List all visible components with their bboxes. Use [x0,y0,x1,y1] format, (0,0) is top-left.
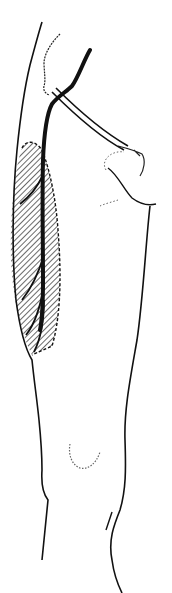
hand-outline [118,146,144,176]
medial-thigh-outline [111,206,150,593]
abdomen-dotted-outline [100,152,124,206]
patella-outline [69,444,100,468]
leg-illustration [0,0,172,593]
knee-medial-notch [106,512,112,530]
lower-abdomen-outline [108,168,156,205]
hip-outline [44,34,60,95]
illustration-canvas [0,0,172,593]
graft-tube [52,88,128,150]
